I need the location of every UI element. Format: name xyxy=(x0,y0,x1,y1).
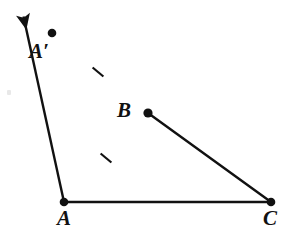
point-a-prime-dot xyxy=(48,29,57,38)
geometry-figure: A′ B A C xyxy=(0,0,296,241)
point-label-a: A xyxy=(57,208,71,229)
segment-bc xyxy=(148,113,271,202)
point-label-a-prime: A′ xyxy=(29,41,49,62)
point-c-dot xyxy=(267,198,276,207)
point-label-b: B xyxy=(117,100,131,121)
point-label-c: C xyxy=(263,208,277,229)
point-a-dot xyxy=(60,198,69,207)
tick-mark-lower xyxy=(101,151,112,165)
geometry-canvas xyxy=(0,0,296,241)
point-b-dot xyxy=(143,108,152,117)
scan-artifact-speck xyxy=(7,90,11,95)
tick-mark-upper xyxy=(93,65,104,79)
